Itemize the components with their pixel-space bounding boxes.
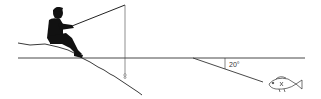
fisherman-silhouette-icon [47,7,83,58]
fish-icon [269,77,302,92]
fishing-rod [72,5,125,26]
refraction-diagram: 20° [0,0,321,99]
refracted-sightline [193,58,263,82]
shoreline [18,43,142,95]
bobber-icon [124,74,126,79]
angle-label: 20° [229,61,240,68]
